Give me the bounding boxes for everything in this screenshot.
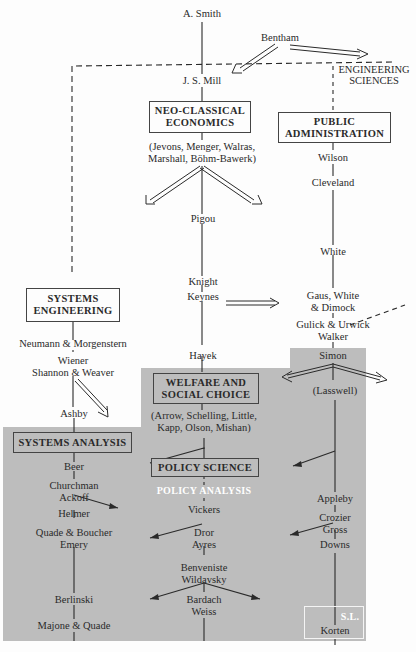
names-line: Walker xyxy=(296,331,370,343)
names-line: Crozier xyxy=(319,512,351,524)
names-line: Wiener xyxy=(32,355,114,367)
node-wilson: Wilson xyxy=(318,152,348,164)
box-policy-science: POLICY SCIENCE xyxy=(151,458,259,477)
node-hayek: Hayek xyxy=(189,350,216,362)
node-neoclassical-economists: (Jevons, Menger, Walras, Marshall, Böhm-… xyxy=(148,141,256,164)
node-mill: J. S. Mill xyxy=(183,75,222,87)
names-line: (Arrow, Schelling, Little, xyxy=(151,410,257,422)
names-line: Kapp, Olson, Mishan) xyxy=(151,422,257,434)
box-text-line: NEO-CLASSICAL xyxy=(155,105,245,117)
names-line: Ackoff xyxy=(50,492,99,504)
node-pigou: Pigou xyxy=(191,213,216,225)
node-bentham: Bentham xyxy=(261,32,299,44)
names-line: Weiss xyxy=(187,606,222,618)
node-simon: Simon xyxy=(319,350,346,362)
label-engineering-sciences: ENGINEERING SCIENCES xyxy=(338,64,409,86)
names-line: Emery xyxy=(36,539,112,551)
box-text-line: SOCIAL CHOICE xyxy=(162,389,251,401)
node-keynes: Keynes xyxy=(187,291,219,303)
node-helmer: Helmer xyxy=(58,508,90,520)
box-systems-analysis: SYSTEMS ANALYSIS xyxy=(13,432,132,453)
names-line: Churchman xyxy=(50,480,99,492)
node-knight: Knight xyxy=(188,276,217,288)
node-welfare-economists: (Arrow, Schelling, Little, Kapp, Olson, … xyxy=(151,410,257,433)
names-line: Quade & Boucher xyxy=(36,527,112,539)
node-cleveland: Cleveland xyxy=(312,177,355,189)
box-welfare-social-choice: WELFARE AND SOCIAL CHOICE xyxy=(153,373,259,404)
box-text-line: PUBLIC xyxy=(314,116,355,128)
intellectual-lineage-diagram: A. Smith Bentham J. S. Mill ENGINEERING … xyxy=(0,0,416,652)
node-dror-ayres: Dror Ayres xyxy=(192,527,216,550)
label-policy-analysis: POLICY ANALYSIS xyxy=(157,485,252,497)
box-public-administration: PUBLIC ADMINISTRATION xyxy=(278,112,391,143)
box-text-line: ECONOMICS xyxy=(166,117,235,129)
names-line: Marshall, Böhm-Bawerk) xyxy=(148,153,256,165)
label-sciences: SCIENCES xyxy=(338,75,409,86)
names-line: Gaus, White xyxy=(307,290,359,302)
label-sl: S.L. xyxy=(341,611,359,623)
label-engineering: ENGINEERING xyxy=(338,64,409,75)
box-text-line: ENGINEERING xyxy=(33,305,112,317)
names-line: & Dimock xyxy=(307,302,359,314)
node-quade-boucher-emery: Quade & Boucher Emery xyxy=(36,527,112,550)
node-downs: Downs xyxy=(320,539,350,551)
node-churchman-ackoff: Churchman Ackoff xyxy=(50,480,99,503)
names-line: Benveniste xyxy=(181,562,228,574)
node-wiener-shannon: Wiener Shannon & Weaver xyxy=(32,355,114,378)
node-ashby: Ashby xyxy=(60,408,87,420)
box-text-line: ADMINISTRATION xyxy=(285,128,384,140)
node-bardach-weiss: Bardach Weiss xyxy=(187,594,222,617)
node-neumann-morgenstern: Neumann & Morgenstern xyxy=(19,338,127,350)
node-white: White xyxy=(320,246,346,258)
box-text-line: SYSTEMS xyxy=(47,293,98,305)
node-berlinski: Berlinski xyxy=(55,594,94,606)
node-smith: A. Smith xyxy=(183,8,221,20)
node-beer: Beer xyxy=(64,461,84,473)
names-line: Ayres xyxy=(192,539,216,551)
node-vickers: Vickers xyxy=(188,504,220,516)
box-neoclassical-economics: NEO-CLASSICAL ECONOMICS xyxy=(149,101,251,133)
node-korten: Korten xyxy=(320,625,349,637)
node-gaus-white-dimock: Gaus, White & Dimock xyxy=(307,290,359,313)
names-line: Dror xyxy=(192,527,216,539)
node-benveniste-wildavsky: Benveniste Wildavsky xyxy=(181,562,228,585)
node-appleby: Appleby xyxy=(317,493,353,505)
names-line: Gulick & Urwick xyxy=(296,319,370,331)
node-crozier-gross: Crozier Gross xyxy=(319,512,351,535)
box-text-line: WELFARE AND xyxy=(166,377,246,389)
names-line: Gross xyxy=(319,524,351,536)
names-line: (Jevons, Menger, Walras, xyxy=(148,141,256,153)
names-line: Bardach xyxy=(187,594,222,606)
node-lasswell: (Lasswell) xyxy=(313,385,357,397)
node-majone-quade: Majone & Quade xyxy=(38,620,111,632)
names-line: Wildavsky xyxy=(181,574,228,586)
box-systems-engineering: SYSTEMS ENGINEERING xyxy=(26,288,120,322)
node-gulick-urwick-walker: Gulick & Urwick Walker xyxy=(296,319,370,342)
names-line: Shannon & Weaver xyxy=(32,367,114,379)
